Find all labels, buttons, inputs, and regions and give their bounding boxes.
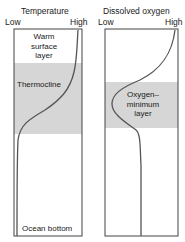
- warm-surface-layer-label: Warm surface layer: [22, 32, 66, 61]
- temperature-axis-low: Low: [5, 17, 21, 27]
- oxygen-title: Dissolved oxygen: [103, 6, 170, 16]
- temperature-title: Temperature: [21, 6, 69, 16]
- oxygen-minimum-layer-label: Oxygen– minimum layer: [118, 90, 168, 119]
- temperature-axis-high: High: [70, 17, 87, 27]
- oxygen-axis-high: High: [165, 17, 182, 27]
- thermocline-label: Thermocline: [17, 80, 61, 90]
- oxygen-profile-curve: [112, 30, 175, 236]
- thermocline-band: [14, 63, 82, 134]
- ocean-bottom-label: Ocean bottom: [22, 224, 72, 234]
- oxygen-axis-low: Low: [98, 17, 114, 27]
